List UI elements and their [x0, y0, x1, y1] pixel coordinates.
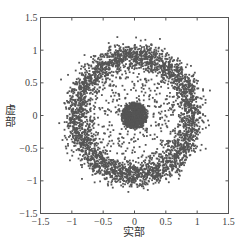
y-tick-label: 0 — [33, 110, 38, 121]
svg-text:部: 部 — [5, 115, 16, 129]
x-tick-label: 1 — [195, 216, 200, 227]
x-tick-label: −0.5 — [94, 216, 112, 227]
scatter-points — [58, 36, 211, 193]
x-axis-label: 实部 — [123, 225, 145, 239]
y-tick-label: −0.5 — [19, 143, 37, 154]
y-tick-label: 1 — [33, 45, 38, 56]
y-tick-label: 1.5 — [25, 12, 38, 23]
y-tick-label: 0.5 — [25, 77, 38, 88]
x-tick-label: −1 — [67, 216, 78, 227]
y-tick-label: −1.5 — [19, 208, 37, 219]
x-tick-label: 0.5 — [160, 216, 173, 227]
x-tick-label: 1.5 — [222, 216, 235, 227]
scatter-chart: −1.5−1−0.500.511.5 −1.5−1−0.500.511.5 实部… — [0, 0, 240, 247]
y-tick-label: −1 — [27, 175, 38, 186]
y-axis-label: 虚 部 — [5, 104, 16, 129]
x-tick-label: 0 — [132, 216, 137, 227]
